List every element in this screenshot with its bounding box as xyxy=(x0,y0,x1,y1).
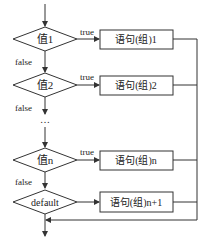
condition-n: 值n true 语句(组)n false xyxy=(13,147,197,188)
false-label-n: false xyxy=(15,177,32,187)
condition-label-2: 值2 xyxy=(37,79,54,91)
true-label-1: true xyxy=(80,27,94,37)
true-label-2: true xyxy=(80,72,94,82)
statement-label-n: 语句(组)n xyxy=(115,154,157,167)
switch-flowchart: 值1 true 语句(组)1 false 值2 true 语句(组)2 fals… xyxy=(0,0,206,243)
condition-label-n: 值n xyxy=(37,154,54,166)
statement-label-1: 语句(组)1 xyxy=(115,33,157,46)
default-label: default xyxy=(31,197,59,208)
condition-1: 值1 true 语句(组)1 false xyxy=(13,27,197,72)
condition-2: 值2 true 语句(组)2 false xyxy=(13,72,197,114)
condition-label-1: 值1 xyxy=(37,33,54,45)
statement-label-2: 语句(组)2 xyxy=(115,79,157,92)
false-label-1: false xyxy=(15,57,32,67)
ellipsis: … xyxy=(40,114,50,125)
false-label-2: false xyxy=(15,103,32,113)
statement-label-default: 语句(组)n+1 xyxy=(110,196,162,209)
true-label-n: true xyxy=(80,147,94,157)
default-branch: default 语句(组)n+1 xyxy=(13,190,197,214)
